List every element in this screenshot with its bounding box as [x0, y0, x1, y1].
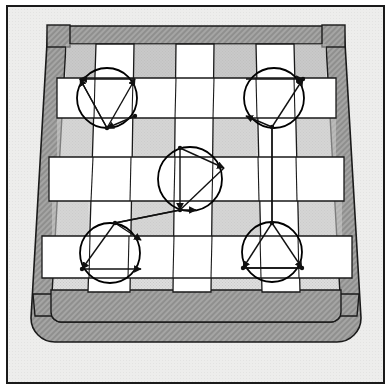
basket-weave-diagram [0, 0, 391, 389]
figure-root [0, 0, 391, 389]
base-band [51, 290, 341, 322]
corner-tab-top-left [47, 25, 70, 47]
horizontal-strip-bottom [42, 236, 352, 278]
corner-tab-top-right [322, 25, 345, 47]
horizontal-strips [42, 78, 352, 278]
